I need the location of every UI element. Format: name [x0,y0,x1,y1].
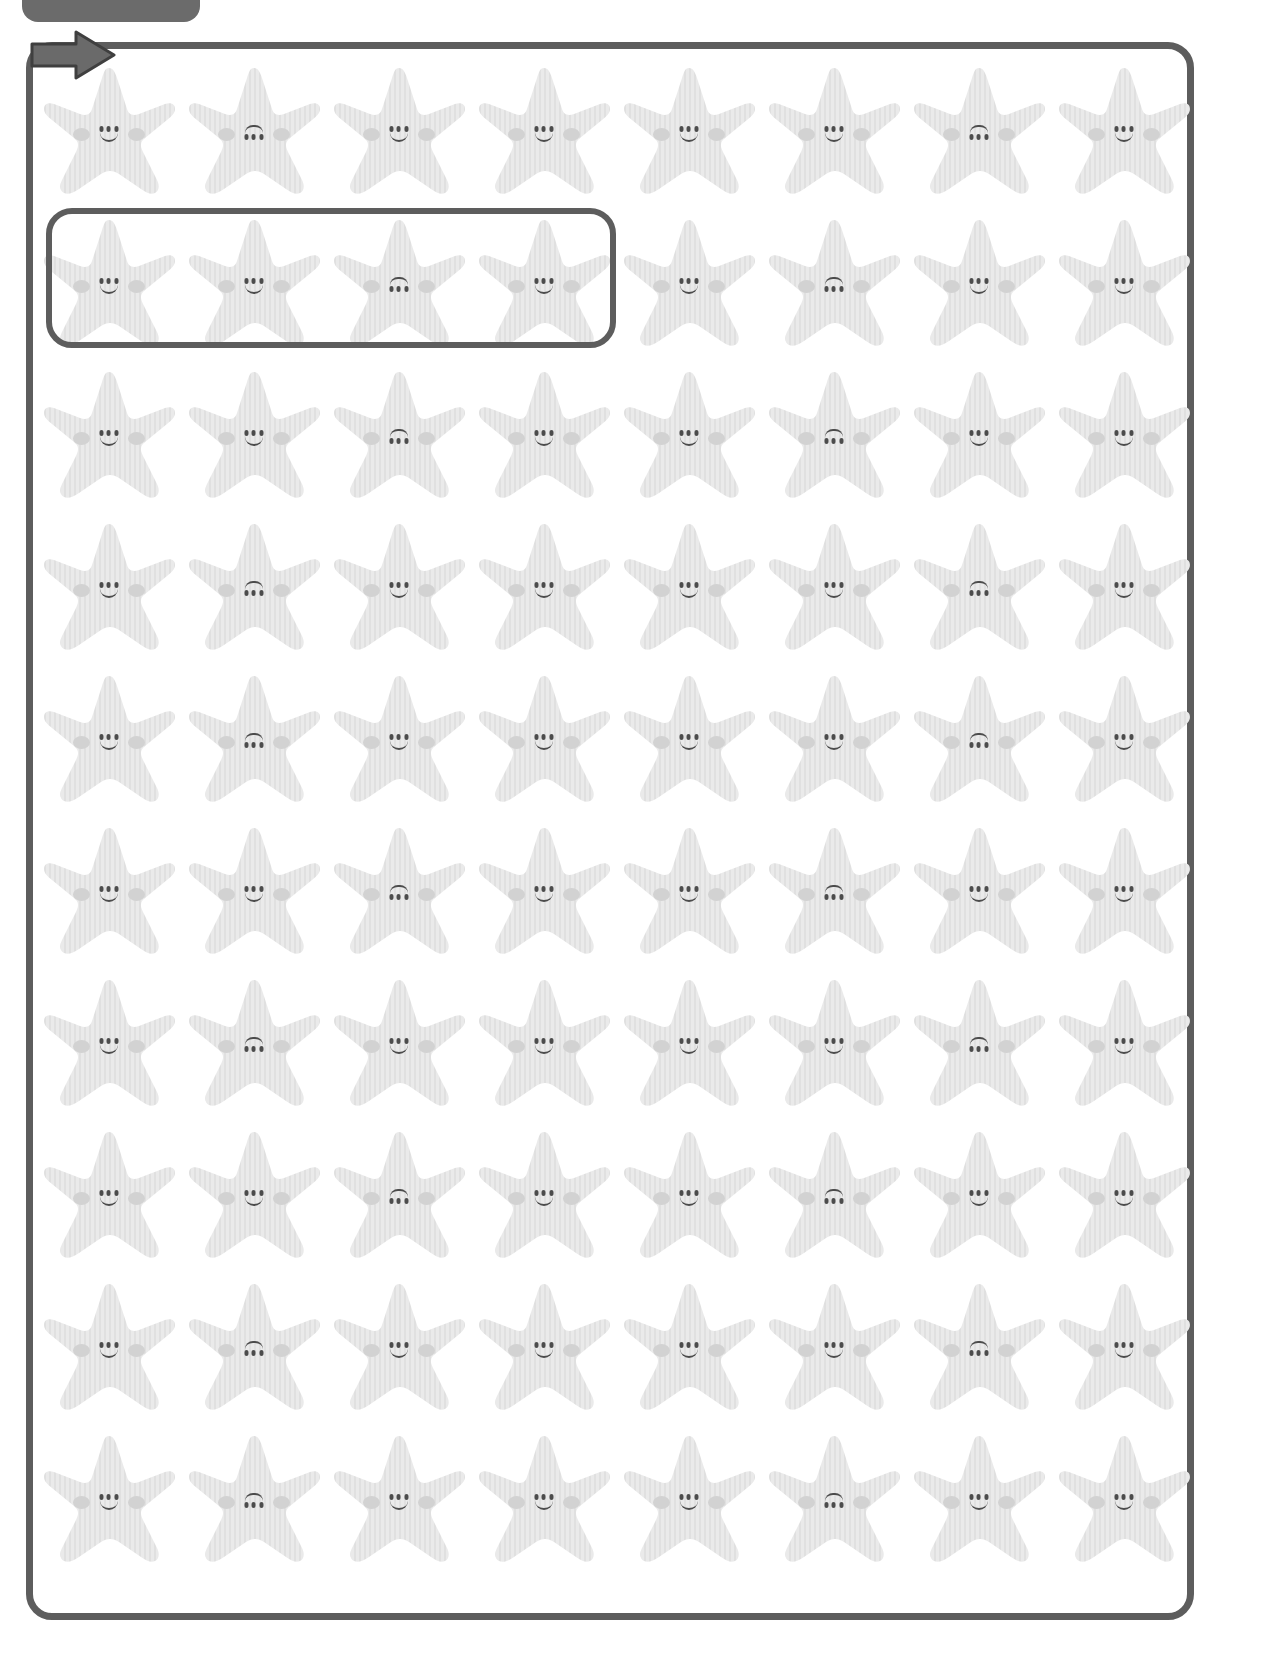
starfish-icon[interactable] [39,672,179,812]
starfish-icon[interactable] [619,672,759,812]
starfish-icon[interactable] [1054,672,1194,812]
starfish-cell[interactable] [616,210,761,362]
starfish-icon[interactable] [764,1280,904,1420]
starfish-icon[interactable] [909,368,1049,508]
starfish-icon[interactable] [184,1280,324,1420]
starfish-cell[interactable] [326,58,471,210]
starfish-cell[interactable] [906,514,1051,666]
starfish-icon[interactable] [1054,824,1194,964]
starfish-cell[interactable] [906,1122,1051,1274]
starfish-icon[interactable] [474,1128,614,1268]
starfish-icon[interactable] [619,976,759,1116]
starfish-icon[interactable] [184,520,324,660]
starfish-icon[interactable] [474,976,614,1116]
starfish-cell[interactable] [761,1426,906,1578]
starfish-cell[interactable] [36,970,181,1122]
starfish-icon[interactable] [184,1432,324,1572]
starfish-cell[interactable] [1051,514,1196,666]
starfish-cell[interactable] [761,818,906,970]
starfish-icon[interactable] [764,368,904,508]
starfish-cell[interactable] [616,1426,761,1578]
starfish-icon[interactable] [909,64,1049,204]
starfish-icon[interactable] [184,1128,324,1268]
starfish-cell[interactable] [761,1122,906,1274]
starfish-cell[interactable] [1051,362,1196,514]
starfish-icon[interactable] [764,216,904,356]
starfish-cell[interactable] [181,362,326,514]
starfish-icon[interactable] [909,1128,1049,1268]
starfish-cell[interactable] [1051,58,1196,210]
starfish-icon[interactable] [39,1128,179,1268]
starfish-cell[interactable] [471,818,616,970]
starfish-icon[interactable] [1054,64,1194,204]
starfish-icon[interactable] [1054,216,1194,356]
starfish-icon[interactable] [39,976,179,1116]
starfish-icon[interactable] [764,672,904,812]
starfish-icon[interactable] [184,368,324,508]
starfish-icon[interactable] [329,976,469,1116]
starfish-icon[interactable] [909,1432,1049,1572]
starfish-icon[interactable] [909,520,1049,660]
starfish-icon[interactable] [619,64,759,204]
starfish-cell[interactable] [36,1274,181,1426]
starfish-icon[interactable] [909,216,1049,356]
starfish-cell[interactable] [616,818,761,970]
starfish-cell[interactable] [181,666,326,818]
starfish-cell[interactable] [906,58,1051,210]
starfish-cell[interactable] [326,1122,471,1274]
starfish-icon[interactable] [184,64,324,204]
starfish-cell[interactable] [1051,666,1196,818]
starfish-cell[interactable] [471,1122,616,1274]
starfish-cell[interactable] [471,1274,616,1426]
starfish-icon[interactable] [329,672,469,812]
starfish-cell[interactable] [326,970,471,1122]
starfish-icon[interactable] [329,1280,469,1420]
starfish-cell[interactable] [326,1426,471,1578]
starfish-cell[interactable] [326,818,471,970]
starfish-icon[interactable] [329,520,469,660]
starfish-cell[interactable] [36,58,181,210]
starfish-cell[interactable] [761,1274,906,1426]
top-tab[interactable] [22,0,200,22]
starfish-icon[interactable] [619,1128,759,1268]
starfish-cell[interactable] [1051,210,1196,362]
starfish-cell[interactable] [471,1426,616,1578]
starfish-cell[interactable] [906,1274,1051,1426]
starfish-icon[interactable] [474,1280,614,1420]
starfish-cell[interactable] [906,210,1051,362]
starfish-cell[interactable] [36,1426,181,1578]
starfish-cell[interactable] [471,58,616,210]
starfish-icon[interactable] [329,368,469,508]
starfish-icon[interactable] [764,64,904,204]
starfish-icon[interactable] [184,824,324,964]
starfish-cell[interactable] [761,666,906,818]
starfish-icon[interactable] [619,520,759,660]
starfish-cell[interactable] [761,514,906,666]
starfish-icon[interactable] [39,1432,179,1572]
starfish-cell[interactable] [471,970,616,1122]
starfish-icon[interactable] [1054,1280,1194,1420]
starfish-cell[interactable] [36,514,181,666]
starfish-cell[interactable] [471,362,616,514]
starfish-icon[interactable] [909,976,1049,1116]
starfish-icon[interactable] [329,1128,469,1268]
starfish-icon[interactable] [39,368,179,508]
starfish-cell[interactable] [761,58,906,210]
starfish-cell[interactable] [761,970,906,1122]
starfish-cell[interactable] [761,362,906,514]
starfish-cell[interactable] [181,1122,326,1274]
starfish-icon[interactable] [329,64,469,204]
starfish-cell[interactable] [616,1122,761,1274]
starfish-cell[interactable] [471,514,616,666]
starfish-icon[interactable] [619,216,759,356]
starfish-icon[interactable] [329,824,469,964]
starfish-icon[interactable] [764,1432,904,1572]
starfish-icon[interactable] [764,1128,904,1268]
starfish-cell[interactable] [906,970,1051,1122]
starfish-icon[interactable] [184,672,324,812]
starfish-icon[interactable] [1054,520,1194,660]
starfish-cell[interactable] [181,1426,326,1578]
starfish-cell[interactable] [1051,1426,1196,1578]
starfish-cell[interactable] [616,58,761,210]
starfish-icon[interactable] [39,64,179,204]
